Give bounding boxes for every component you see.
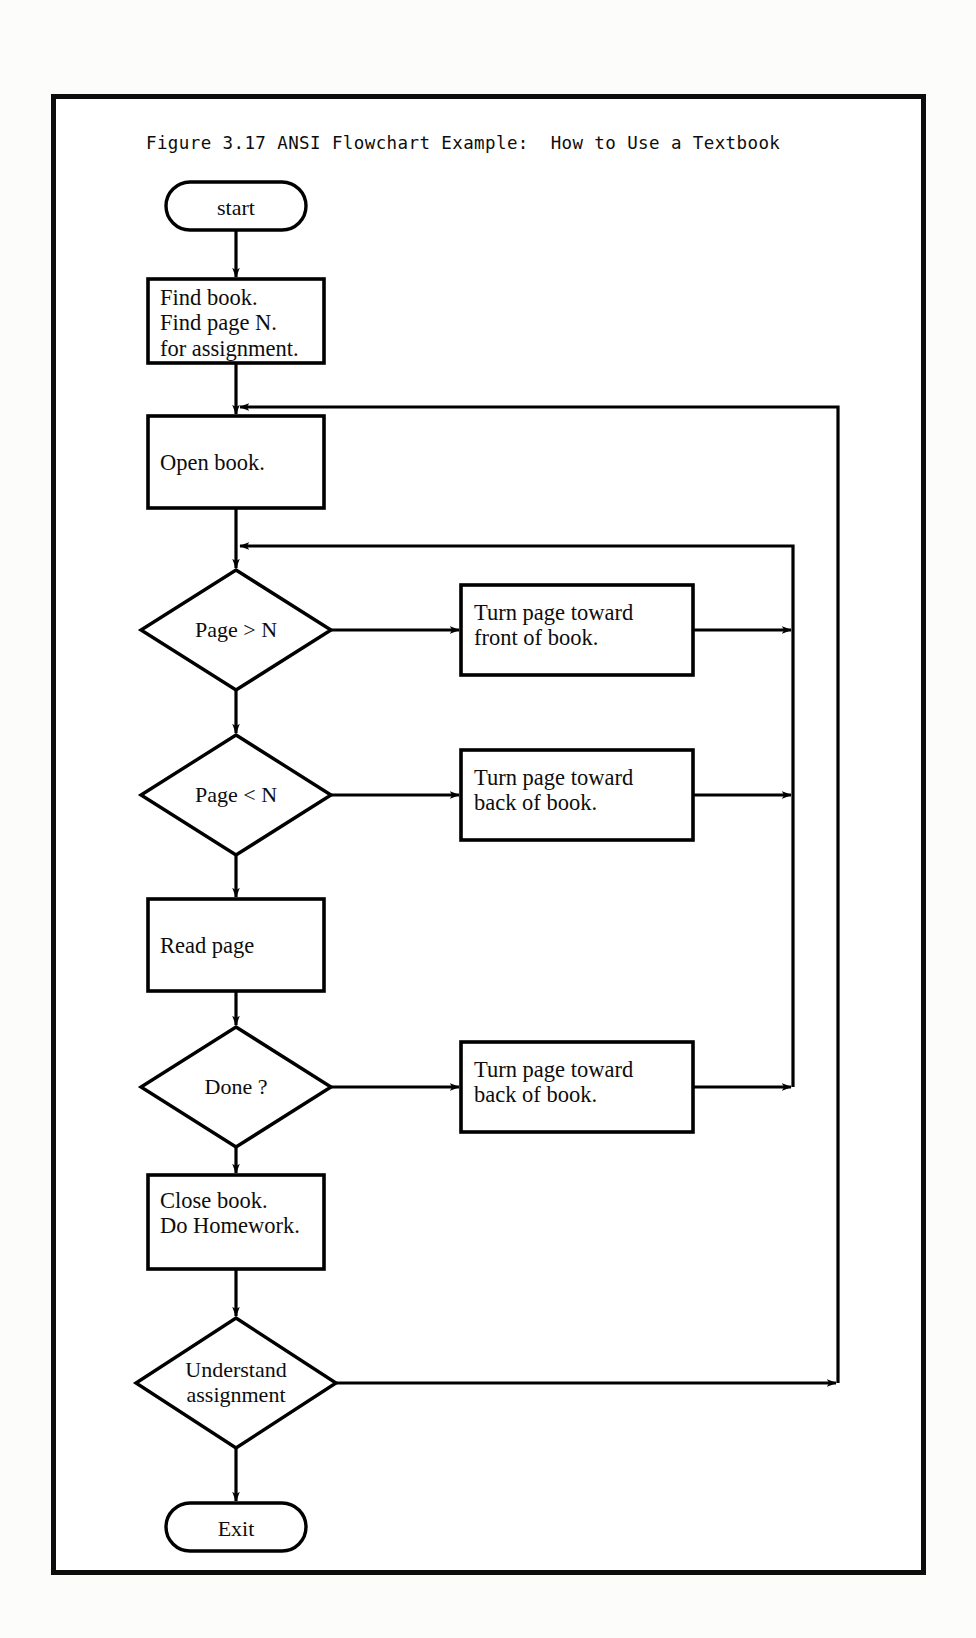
node-page-lt-n-shape bbox=[141, 735, 331, 855]
edge-outer-loop-return bbox=[240, 407, 838, 1383]
flowchart-canvas bbox=[0, 0, 976, 1638]
node-find-book-shape bbox=[148, 279, 324, 363]
node-done-shape bbox=[141, 1027, 331, 1147]
node-exit-shape bbox=[166, 1503, 306, 1551]
node-turn-front-shape bbox=[461, 585, 693, 675]
node-page-gt-n-shape bbox=[141, 570, 331, 690]
node-turn-back-2-shape bbox=[461, 1042, 693, 1132]
node-start-shape bbox=[166, 182, 306, 230]
node-turn-back-1-shape bbox=[461, 750, 693, 840]
node-open-book-shape bbox=[148, 416, 324, 508]
node-close-book-shape bbox=[148, 1175, 324, 1269]
node-understand-shape bbox=[136, 1318, 336, 1448]
node-read-page-shape bbox=[148, 899, 324, 991]
